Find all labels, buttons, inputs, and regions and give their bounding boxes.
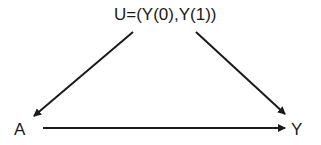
edge-u-to-a <box>34 32 133 116</box>
node-y-label: Y <box>291 121 302 138</box>
node-u-label: U=(Y(0),Y(1)) <box>114 6 216 23</box>
causal-diagram: U=(Y(0),Y(1)) A Y <box>0 0 321 145</box>
node-a-label: A <box>14 121 25 138</box>
edge-u-to-y <box>196 32 285 114</box>
